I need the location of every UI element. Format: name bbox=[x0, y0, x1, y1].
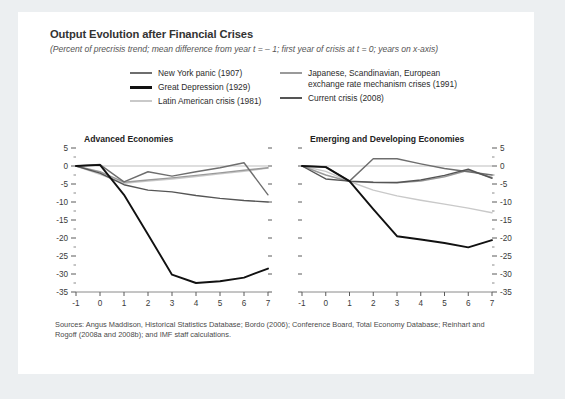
svg-text:0: 0 bbox=[500, 162, 505, 171]
svg-text:2: 2 bbox=[371, 299, 376, 308]
legend-item: Current crisis (2008) bbox=[280, 93, 510, 104]
legend-swatch-line-icon bbox=[280, 97, 302, 99]
legend-swatch-line-icon bbox=[130, 72, 152, 74]
svg-text:-10: -10 bbox=[500, 198, 512, 207]
svg-text:-20: -20 bbox=[56, 234, 68, 243]
chart-panel-advanced-economies: Advanced Economies 50-5-10-15-20-25-30-3… bbox=[36, 120, 286, 310]
line-chart-advanced-economies: 50-5-10-15-20-25-30-35-101234567 bbox=[36, 120, 286, 310]
svg-text:6: 6 bbox=[242, 299, 247, 308]
svg-text:-35: -35 bbox=[56, 288, 68, 297]
chart-panel-emerging-economies: Emerging and Developing Economies 50-5-1… bbox=[280, 120, 530, 310]
svg-text:-1: -1 bbox=[72, 299, 80, 308]
figure-title: Output Evolution after Financial Crises bbox=[50, 28, 253, 40]
svg-text:1: 1 bbox=[347, 299, 352, 308]
svg-text:-5: -5 bbox=[500, 180, 508, 189]
legend-item: New York panic (1907) bbox=[130, 68, 295, 79]
legend-column-right: Japanese, Scandinavian, European exchang… bbox=[280, 68, 510, 107]
legend-swatch-line-icon bbox=[130, 86, 152, 89]
legend-item-label: Great Depression (1929) bbox=[158, 82, 250, 93]
svg-text:-10: -10 bbox=[56, 198, 68, 207]
svg-text:1: 1 bbox=[122, 299, 127, 308]
svg-text:4: 4 bbox=[194, 299, 199, 308]
svg-text:-30: -30 bbox=[56, 270, 68, 279]
svg-text:7: 7 bbox=[266, 299, 271, 308]
svg-text:-35: -35 bbox=[500, 288, 512, 297]
svg-text:3: 3 bbox=[170, 299, 175, 308]
svg-text:6: 6 bbox=[466, 299, 471, 308]
legend-item: Latin American crisis (1981) bbox=[130, 96, 295, 107]
svg-text:-20: -20 bbox=[500, 234, 512, 243]
legend-item-label: Japanese, Scandinavian, European exchang… bbox=[308, 68, 457, 89]
svg-text:5: 5 bbox=[63, 144, 68, 153]
svg-text:-5: -5 bbox=[61, 180, 69, 189]
svg-text:7: 7 bbox=[490, 299, 495, 308]
svg-text:-15: -15 bbox=[56, 216, 68, 225]
legend-item-label: Current crisis (2008) bbox=[308, 93, 384, 104]
svg-text:-25: -25 bbox=[56, 252, 68, 261]
legend-item-label: Latin American crisis (1981) bbox=[158, 96, 261, 107]
legend-item: Japanese, Scandinavian, European exchang… bbox=[280, 68, 510, 89]
panel-title: Advanced Economies bbox=[84, 134, 173, 144]
svg-text:2: 2 bbox=[146, 299, 151, 308]
svg-text:5: 5 bbox=[218, 299, 223, 308]
legend-item: Great Depression (1929) bbox=[130, 82, 295, 93]
svg-text:0: 0 bbox=[98, 299, 103, 308]
svg-text:3: 3 bbox=[395, 299, 400, 308]
svg-text:-30: -30 bbox=[500, 270, 512, 279]
svg-text:5: 5 bbox=[500, 144, 505, 153]
legend-column-left: New York panic (1907) Great Depression (… bbox=[130, 68, 295, 110]
svg-text:4: 4 bbox=[418, 299, 423, 308]
page-background: Output Evolution after Financial Crises … bbox=[0, 0, 565, 399]
svg-text:0: 0 bbox=[323, 299, 328, 308]
sources-note: Sources: Angus Maddison, Historical Stat… bbox=[55, 320, 500, 340]
panel-title: Emerging and Developing Economies bbox=[310, 134, 464, 144]
svg-text:5: 5 bbox=[442, 299, 447, 308]
legend-swatch-line-icon bbox=[280, 72, 302, 74]
svg-text:-1: -1 bbox=[298, 299, 306, 308]
legend-swatch-line-icon bbox=[130, 100, 152, 102]
chart-panels: Advanced Economies 50-5-10-15-20-25-30-3… bbox=[18, 120, 534, 310]
svg-text:-25: -25 bbox=[500, 252, 512, 261]
chart-legend: New York panic (1907) Great Depression (… bbox=[130, 68, 530, 114]
legend-item-label: New York panic (1907) bbox=[158, 68, 242, 79]
svg-text:0: 0 bbox=[63, 162, 68, 171]
figure-card: Output Evolution after Financial Crises … bbox=[18, 12, 534, 374]
line-chart-emerging-economies: 50-5-10-15-20-25-30-35-101234567 bbox=[280, 120, 530, 310]
svg-text:-15: -15 bbox=[500, 216, 512, 225]
figure-subtitle: (Percent of precrisis trend; mean differ… bbox=[50, 44, 438, 54]
